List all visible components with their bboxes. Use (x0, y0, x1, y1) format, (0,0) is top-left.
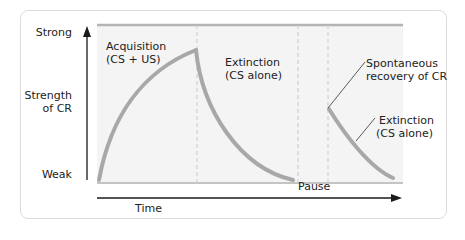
extinction2-label: Extinction (379, 114, 434, 127)
y-label-strong: Strong (30, 26, 72, 39)
spontaneous-label: Spontaneous (366, 57, 438, 70)
y-label-weak: Weak (30, 168, 72, 181)
pause-label: Pause (298, 180, 330, 193)
acquisition-sublabel: (CS + US) (106, 53, 161, 66)
spontaneous-sublabel: recovery of CR (366, 70, 447, 83)
y-label-strength: Strength (20, 89, 72, 102)
extinction-sublabel: (CS alone) (225, 69, 282, 82)
y-label-of-cr: of CR (20, 102, 72, 115)
x-axis-arrow-icon (391, 194, 402, 202)
x-axis-label-time: Time (135, 202, 162, 215)
extinction2-sublabel: (CS alone) (376, 127, 433, 140)
y-axis-arrow-icon (83, 26, 91, 37)
extinction-label: Extinction (225, 56, 280, 69)
acquisition-label: Acquisition (106, 40, 166, 53)
